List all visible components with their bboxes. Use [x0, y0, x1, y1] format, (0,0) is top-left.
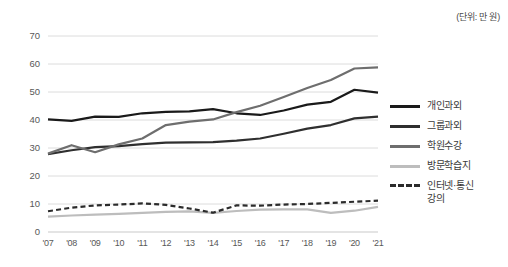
- legend-swatch-icon: [390, 100, 420, 113]
- x-axis-tick-label: '11: [129, 238, 155, 248]
- legend-item[interactable]: 학원수강: [390, 140, 508, 153]
- legend-item-label: 인터넷·통신 강의: [427, 180, 474, 205]
- x-axis-tick-label: '08: [59, 238, 85, 248]
- y-axis-tick-label: 0: [14, 226, 40, 237]
- y-axis-tick-label: 10: [14, 198, 40, 209]
- series-line: [48, 201, 378, 213]
- legend-swatch-icon: [390, 180, 420, 193]
- legend-item[interactable]: 방문학습지: [390, 160, 508, 173]
- x-axis-tick-label: '15: [224, 238, 250, 248]
- x-axis-tick-label: '20: [341, 238, 367, 248]
- y-axis-tick-label: 30: [14, 142, 40, 153]
- legend-item-label: 학원수강: [427, 140, 462, 153]
- series-line: [48, 90, 378, 121]
- series-line: [48, 67, 378, 153]
- legend-swatch-icon: [390, 160, 420, 173]
- x-axis-tick-label: '17: [271, 238, 297, 248]
- chart-container: (단위: 만 원) 010203040506070 '07'08'09'10'1…: [0, 0, 508, 267]
- y-axis-tick-label: 20: [14, 170, 40, 181]
- y-axis-tick-label: 70: [14, 30, 40, 41]
- legend: 개인과외그룹과외학원수강방문학습지인터넷·통신 강의: [390, 100, 508, 213]
- legend-item[interactable]: 개인과외: [390, 100, 508, 113]
- legend-swatch-icon: [390, 140, 420, 153]
- series-line: [48, 117, 378, 155]
- series-lines: [48, 67, 378, 216]
- legend-swatch-icon: [390, 120, 420, 133]
- x-axis-tick-label: '13: [176, 238, 202, 248]
- legend-item-label: 방문학습지: [427, 160, 471, 173]
- y-axis-tick-label: 50: [14, 86, 40, 97]
- x-axis-tick-label: '07: [35, 238, 61, 248]
- x-axis-tick-label: '10: [106, 238, 132, 248]
- x-axis-tick-label: '18: [294, 238, 320, 248]
- x-axis-tick-label: '21: [365, 238, 391, 248]
- x-axis-tick-label: '09: [82, 238, 108, 248]
- x-axis-tick-label: '14: [200, 238, 226, 248]
- x-axis-tick-label: '12: [153, 238, 179, 248]
- legend-item-label: 개인과외: [427, 100, 462, 113]
- x-axis-tick-label: '16: [247, 238, 273, 248]
- legend-item[interactable]: 그룹과외: [390, 120, 508, 133]
- x-axis-tick-label: '19: [318, 238, 344, 248]
- y-axis-tick-label: 60: [14, 58, 40, 69]
- legend-item[interactable]: 인터넷·통신 강의: [390, 180, 508, 206]
- y-axis-tick-label: 40: [14, 114, 40, 125]
- legend-item-label: 그룹과외: [427, 120, 462, 133]
